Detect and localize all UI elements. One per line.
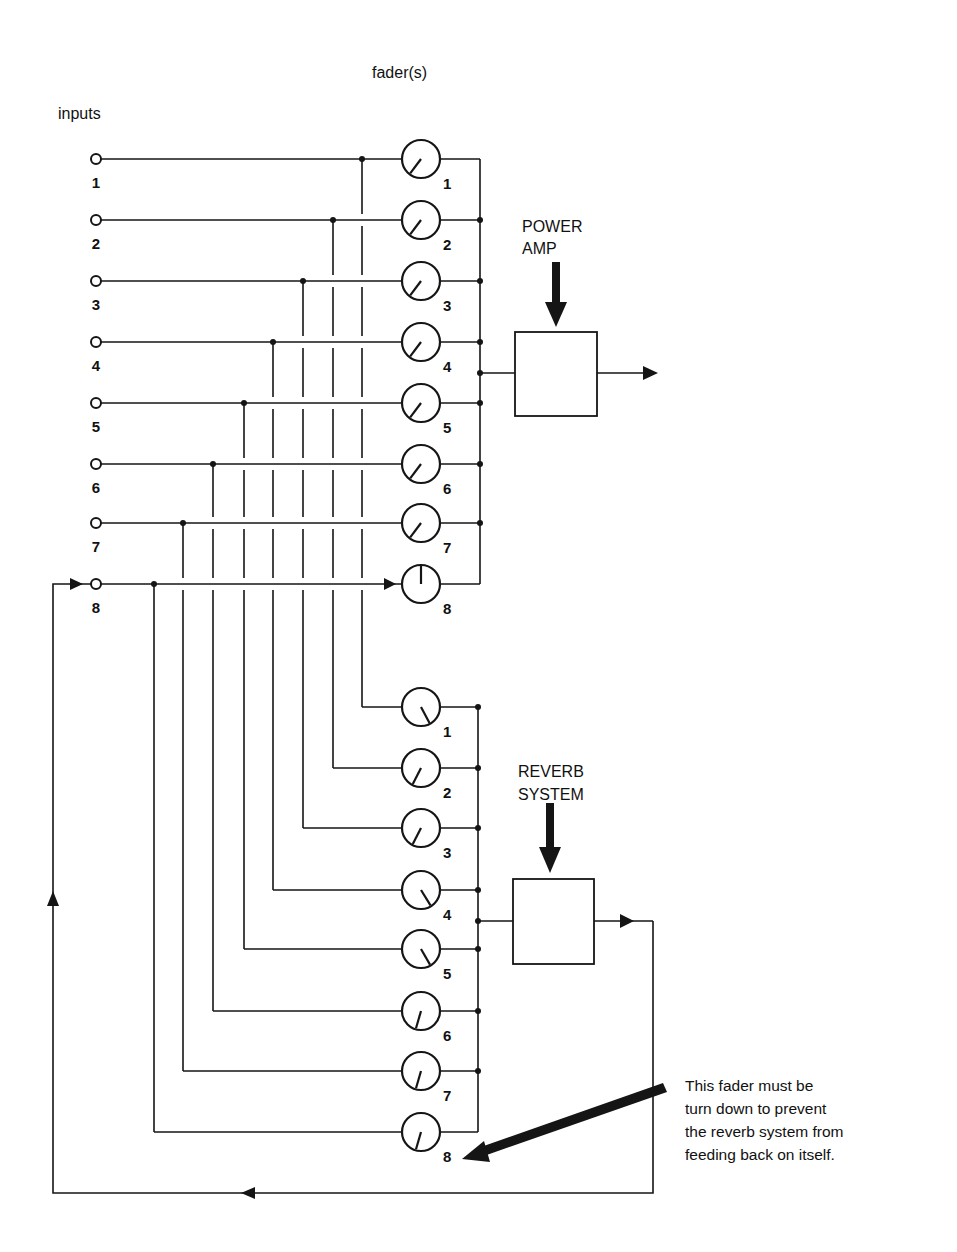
input-jack-icon[interactable] (91, 337, 101, 347)
reverb-label-1: REVERB (518, 763, 584, 780)
reverb-fader-5[interactable]: 5 (402, 930, 451, 982)
annotation-line: feeding back on itself. (685, 1146, 835, 1163)
thick-arrow-icon (546, 803, 554, 851)
main-fader-2[interactable]: 2 (402, 201, 451, 253)
annotation-line: the reverb system from (685, 1123, 844, 1140)
main-fader-1[interactable]: 1 (402, 140, 451, 192)
input-jack-icon[interactable] (91, 276, 101, 286)
input-jack-icon[interactable] (91, 215, 101, 225)
junction-dot (180, 520, 186, 526)
arrow-down-icon (545, 302, 567, 327)
fader-number: 6 (443, 1027, 451, 1044)
fader-number: 4 (443, 358, 452, 375)
mixer-routing-diagram: fader(s) inputs 1122334455667788POWERAMP… (0, 0, 957, 1252)
arrow-up-icon (47, 891, 59, 906)
fader-number: 3 (443, 297, 451, 314)
input-number: 1 (92, 174, 100, 191)
fader-number: 3 (443, 844, 451, 861)
arrow-down-icon (539, 847, 561, 873)
main-fader-6[interactable]: 6 (402, 445, 451, 497)
input-jack-icon[interactable] (91, 459, 101, 469)
thick-arrow-icon (552, 262, 560, 306)
fader-number: 7 (443, 1087, 451, 1104)
reverb-system-box[interactable] (513, 879, 594, 964)
arrow-right-icon (620, 914, 634, 928)
power-amp-label-2: AMP (522, 240, 557, 257)
main-fader-8[interactable]: 8 (402, 565, 451, 617)
input-number: 2 (92, 235, 100, 252)
arrow-right-icon (643, 366, 658, 380)
input-jack-icon[interactable] (91, 579, 101, 589)
fader-number: 5 (443, 419, 451, 436)
fader-number: 7 (443, 539, 451, 556)
faders-heading: fader(s) (372, 64, 427, 81)
reverb-label-2: SYSTEM (518, 786, 584, 803)
arrow-left-icon (241, 1187, 255, 1199)
input-jack-icon[interactable] (91, 154, 101, 164)
arrow-right-icon (70, 578, 83, 590)
fader-number: 4 (443, 906, 452, 923)
fader-number: 8 (443, 600, 451, 617)
junction-dot (241, 400, 247, 406)
input-jack-icon[interactable] (91, 398, 101, 408)
reverb-fader-4[interactable]: 4 (402, 871, 452, 923)
power-amp-box[interactable] (515, 332, 597, 416)
annotation-line: turn down to prevent (685, 1100, 827, 1117)
arrow-right-icon (384, 578, 396, 590)
power-amp-label-1: POWER (522, 218, 582, 235)
junction-dot (330, 217, 336, 223)
input-number: 7 (92, 538, 100, 555)
input-jack-icon[interactable] (91, 518, 101, 528)
fader-number: 5 (443, 965, 451, 982)
main-fader-5[interactable]: 5 (402, 384, 451, 436)
junction-dot (210, 461, 216, 467)
input-number: 3 (92, 296, 100, 313)
main-bus: 1122334455667788POWERAMP (91, 140, 658, 617)
main-fader-3[interactable]: 3 (402, 262, 451, 314)
fader-number: 8 (443, 1148, 451, 1165)
reverb-fader-7[interactable]: 7 (402, 1052, 451, 1104)
fader-number: 1 (443, 175, 451, 192)
fader-number: 2 (443, 236, 451, 253)
junction-dot (300, 278, 306, 284)
annotation-line: This fader must be (685, 1077, 813, 1094)
input-number: 5 (92, 418, 100, 435)
input-number: 4 (92, 357, 101, 374)
fader-number: 2 (443, 784, 451, 801)
main-fader-4[interactable]: 4 (402, 323, 452, 375)
junction-dot (151, 581, 157, 587)
fader-number: 1 (443, 723, 451, 740)
reverb-fader-8[interactable]: 8 (402, 1113, 451, 1165)
reverb-fader-3[interactable]: 3 (402, 809, 451, 861)
main-fader-7[interactable]: 7 (402, 504, 451, 556)
junction-dot (359, 156, 365, 162)
reverb-fader-6[interactable]: 6 (402, 992, 451, 1044)
input-number: 8 (92, 599, 100, 616)
thick-arrow-icon (478, 1083, 667, 1157)
input-number: 6 (92, 479, 100, 496)
fader-number: 6 (443, 480, 451, 497)
send-lines (154, 159, 362, 1132)
inputs-heading: inputs (58, 105, 101, 122)
arrow-head-icon (462, 1141, 490, 1162)
junction-dot (270, 339, 276, 345)
reverb-fader-1[interactable]: 1 (402, 688, 451, 740)
reverb-bus: 12345678REVERBSYSTEM (154, 688, 653, 1165)
reverb-fader-2[interactable]: 2 (402, 749, 451, 801)
